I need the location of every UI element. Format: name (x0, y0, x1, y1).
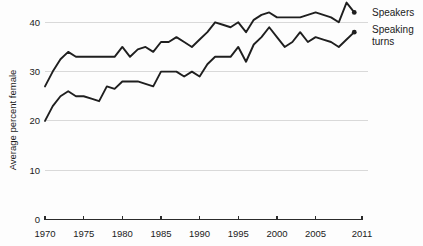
legend-label-speaking-turns-line1: Speaking (372, 24, 414, 35)
x-tick-label: 1980 (112, 228, 133, 239)
y-axis-tick-labels: 010203040 (29, 17, 40, 225)
chart-container: 010203040 197019751980198519901995200020… (0, 0, 423, 246)
legend-label-speaking-turns-line2: turns (372, 36, 394, 47)
x-tick-label: 2000 (266, 228, 287, 239)
x-tick-label: 1985 (150, 228, 171, 239)
endpoint-dot-speaking-turns (352, 30, 357, 35)
gridlines-group (45, 22, 368, 170)
y-tick-label: 40 (29, 17, 40, 28)
x-tick-label: 2011 (352, 228, 372, 239)
x-tick-label: 1970 (34, 228, 55, 239)
data-series-group (45, 3, 357, 121)
series-line-speakers (45, 3, 354, 87)
x-tick-label: 1990 (189, 228, 210, 239)
x-axis-tick-labels: 197019751980198519901995200020052011 (34, 228, 372, 239)
y-tick-label: 10 (29, 165, 40, 176)
y-axis-title: Average percent female (7, 70, 18, 171)
line-chart: 010203040 197019751980198519901995200020… (0, 0, 423, 246)
legend-label-speakers: Speakers (372, 7, 414, 18)
endpoint-dot-speakers (352, 10, 357, 15)
x-tick-label: 1975 (73, 228, 94, 239)
series-line-speaking-turns (45, 27, 354, 121)
x-tick-label: 2005 (305, 228, 326, 239)
x-tick-label: 1995 (228, 228, 249, 239)
y-tick-label: 0 (35, 214, 40, 225)
y-tick-label: 20 (29, 115, 40, 126)
y-tick-label: 30 (29, 66, 40, 77)
